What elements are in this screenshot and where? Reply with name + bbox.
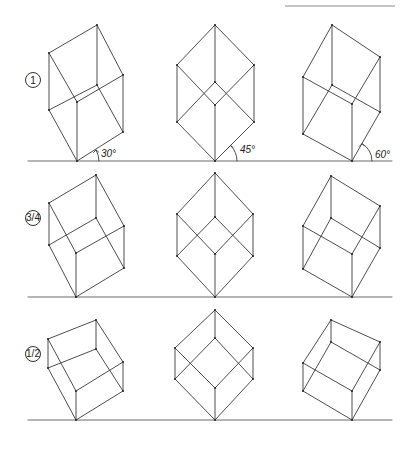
cube-edge <box>215 214 253 254</box>
cube-edge <box>96 175 124 226</box>
cube-edge <box>215 310 253 348</box>
cube-vertex <box>253 64 255 66</box>
cube-row-1-col-3 <box>302 24 381 162</box>
cube-vertex <box>330 341 332 343</box>
cube-vertex <box>48 202 50 204</box>
cube-edge <box>49 25 97 53</box>
cube-vertex <box>302 362 304 364</box>
cube-edge <box>175 379 215 420</box>
cube-edge <box>48 368 76 420</box>
cube-edge <box>96 218 124 268</box>
cube-edge <box>76 268 124 297</box>
cube-vertex <box>95 319 97 321</box>
cube-row-2-col-1 <box>48 174 125 298</box>
cube-vertex <box>302 390 304 392</box>
cube-edge <box>352 248 380 297</box>
cube-vertex <box>302 133 304 135</box>
angle-label: 30° <box>101 148 116 159</box>
cube-row-2-col-2 <box>176 172 254 298</box>
cube-vertex <box>122 131 124 133</box>
cube-vertex <box>214 81 216 83</box>
cube-vertex <box>48 244 50 246</box>
cube-edge <box>215 65 254 105</box>
cube-edge <box>49 203 76 253</box>
angle-mark-45: 45° <box>228 144 255 161</box>
angle-arc <box>231 145 237 161</box>
row-label-1: 1 <box>26 73 41 88</box>
cube-edge <box>177 217 215 256</box>
cube-edge <box>49 245 76 297</box>
cube-edge <box>97 25 123 75</box>
cube-edge <box>215 379 253 420</box>
cube-edge <box>49 53 77 102</box>
cube-vertex <box>123 225 125 227</box>
cube-edge <box>76 226 124 253</box>
row-label-3: 1/2 <box>26 347 41 362</box>
cube-vertex <box>47 367 49 369</box>
angle-label: 60° <box>375 149 390 160</box>
cube-edge <box>303 77 352 104</box>
cube-vertex <box>214 216 216 218</box>
cube-edge <box>177 82 215 122</box>
cube-vertex <box>95 174 97 176</box>
cube-projection-diagram: 13/41/2 30°45°60° <box>0 0 407 452</box>
cube-edge <box>48 320 96 339</box>
cube-edge <box>177 122 215 161</box>
cube-vertex <box>351 103 353 105</box>
cube-edge <box>97 85 123 132</box>
cube-edge <box>303 218 331 269</box>
cube-vertex <box>174 378 176 380</box>
cube-edge <box>352 57 380 104</box>
cube-edge <box>303 363 352 391</box>
cube-vertex <box>176 255 178 257</box>
row-scale-label: 3/4 <box>26 212 40 223</box>
cube-vertex <box>252 347 254 349</box>
cube-edge <box>303 320 331 363</box>
cube-vertex <box>379 56 381 58</box>
cube-vertex <box>252 255 254 257</box>
cube-vertex <box>123 267 125 269</box>
cube-edge <box>175 310 215 348</box>
cube-vertex <box>214 172 216 174</box>
cube-row-1-col-2 <box>176 24 255 162</box>
cube-vertex <box>252 378 254 380</box>
cube-vertex <box>351 253 353 255</box>
cube-vertex <box>331 84 333 86</box>
cube-vertex <box>214 337 216 339</box>
cube-edge <box>177 173 215 214</box>
cube-vertex <box>76 160 78 162</box>
cube-vertex <box>214 24 216 26</box>
cube-vertex <box>351 390 353 392</box>
cube-edge <box>215 25 254 65</box>
cube-vertex <box>75 252 77 254</box>
cube-edge <box>76 391 123 420</box>
cube-vertex <box>214 387 216 389</box>
cube-vertex <box>351 419 353 421</box>
cube-vertex <box>379 369 381 371</box>
cube-edge <box>49 110 77 161</box>
cube-vertex <box>253 121 255 123</box>
cube-row-2-col-3 <box>302 175 381 298</box>
cube-vertex <box>122 390 124 392</box>
cube-vertex <box>122 74 124 76</box>
arrowhead-icon <box>360 144 365 147</box>
row-scale-label: 1/2 <box>26 348 40 359</box>
cube-edge <box>175 338 215 379</box>
cube-edge <box>177 214 215 254</box>
cube-edge <box>177 256 215 297</box>
cube-edge <box>48 339 76 391</box>
cube-vertex <box>302 76 304 78</box>
cube-vertex <box>122 361 124 363</box>
cube-edge <box>215 338 253 379</box>
cube-edge <box>49 85 97 110</box>
cube-vertex <box>176 121 178 123</box>
cube-vertex <box>330 319 332 321</box>
cube-edge <box>215 173 253 214</box>
cube-edge <box>332 85 380 112</box>
cube-edge <box>49 218 96 245</box>
cube-edge <box>177 65 215 105</box>
cube-edge <box>352 342 380 391</box>
cube-edge <box>215 348 253 388</box>
cube-edge <box>215 82 254 122</box>
cube-vertex <box>75 419 77 421</box>
